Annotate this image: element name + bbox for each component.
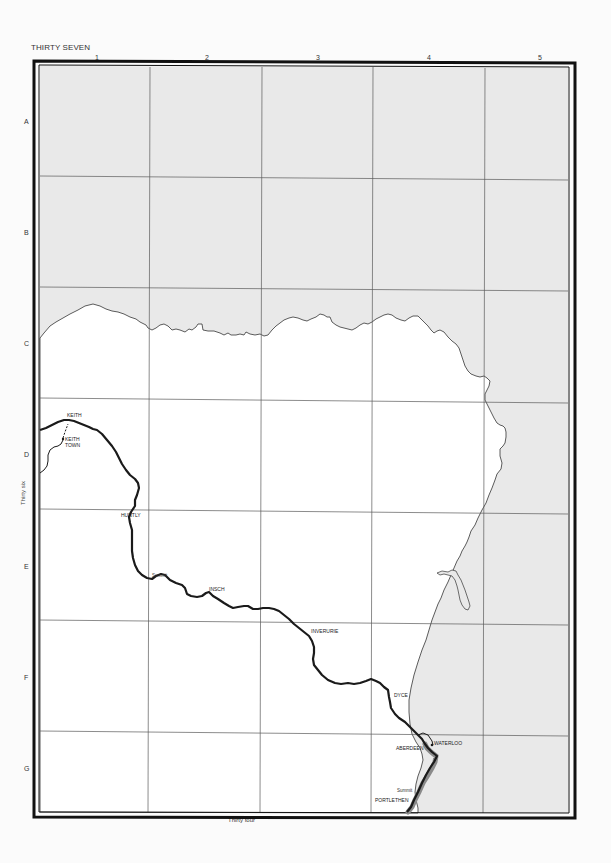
place-label-waterloo: WATERLOO xyxy=(434,740,462,746)
place-label-keith-town-2: TOWN xyxy=(65,442,81,448)
station-keith-town-marker xyxy=(62,438,64,440)
station-waterloo-marker xyxy=(431,744,434,747)
place-label-summit-1: Summit xyxy=(152,573,168,578)
place-label-portlethen: PORTLETHEN xyxy=(375,797,409,803)
place-label-aberdeen: ABERDEEN xyxy=(396,745,424,751)
railway-map: KEITH KEITH TOWN HUNTLY Summit INSCH INV… xyxy=(0,0,611,863)
place-label-dyce: DYCE xyxy=(394,692,409,698)
place-label-summit-2: Summit xyxy=(397,788,413,793)
place-label-keith: KEITH xyxy=(67,412,82,418)
place-label-inverurie: INVERURIE xyxy=(311,628,339,634)
place-label-insch: INSCH xyxy=(209,586,225,592)
place-label-huntly: HUNTLY xyxy=(121,512,141,518)
